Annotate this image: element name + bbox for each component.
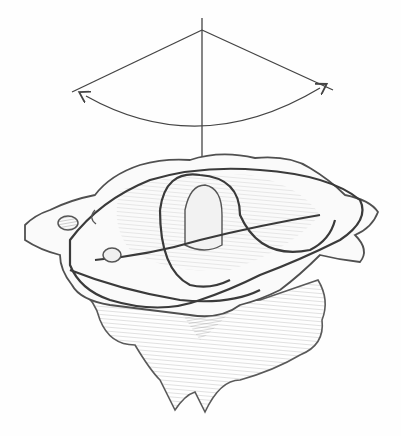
right-angle-line — [202, 30, 333, 90]
vertebra-rotation-illustration — [0, 0, 401, 436]
rotation-arc-arrow-icon — [86, 88, 320, 126]
sketch-canvas — [0, 0, 401, 436]
atlas-vertebra — [25, 154, 378, 316]
left-angle-line — [72, 30, 202, 92]
